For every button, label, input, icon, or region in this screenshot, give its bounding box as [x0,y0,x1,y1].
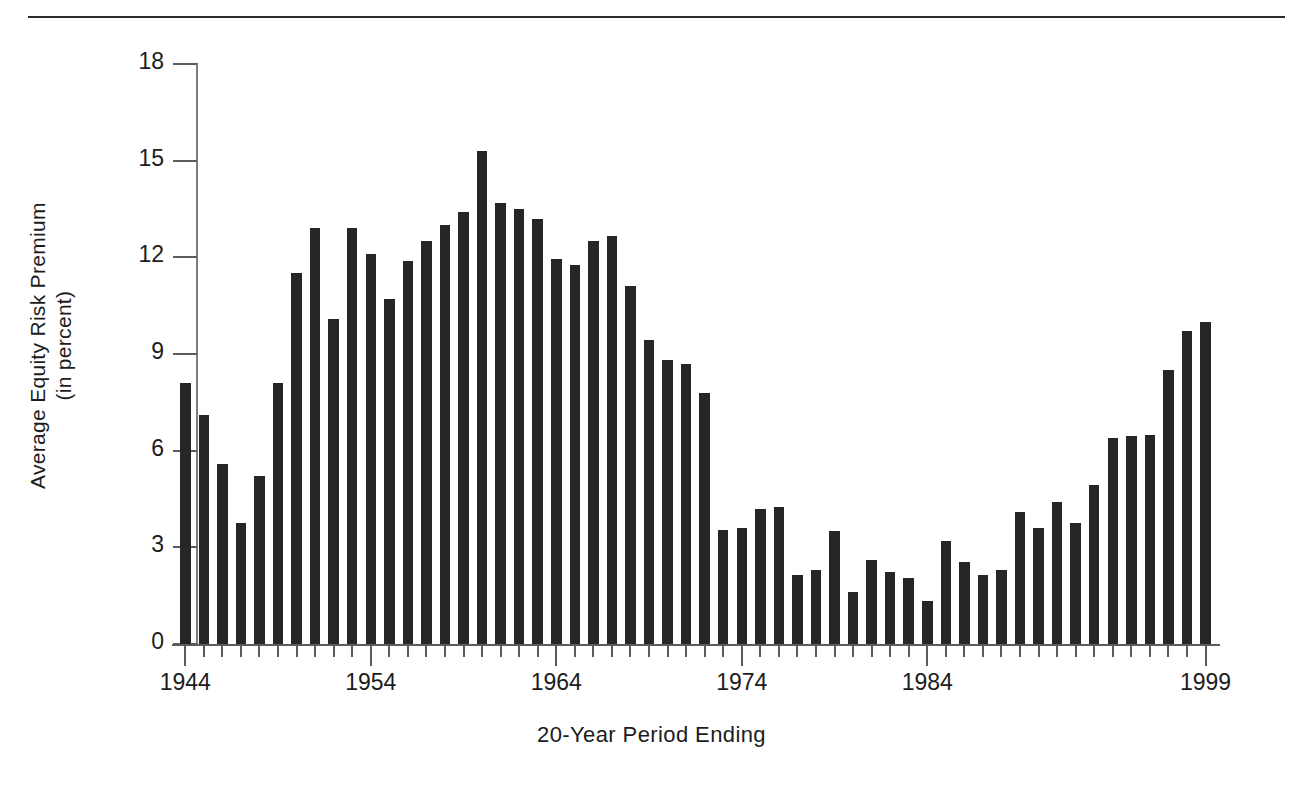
bar-1991 [1052,502,1063,644]
x-tick-1972 [704,646,706,657]
x-tick-1981 [871,646,873,657]
bar-1946 [217,464,228,644]
x-tick-1958 [444,646,446,657]
bar-1993 [1089,485,1100,645]
x-tick-1989 [1019,646,1021,657]
bar-1963 [532,219,543,644]
x-tick-label-1944: 1944 [125,669,245,696]
x-tick-1990 [1038,646,1040,657]
x-tick-1980 [852,646,854,657]
x-tick-1951 [314,646,316,657]
bar-1972 [699,393,710,644]
x-tick-1982 [889,646,891,657]
x-tick-1997 [1167,646,1169,657]
x-tick-1978 [815,646,817,657]
bar-1989 [1015,512,1026,644]
bar-1988 [996,570,1007,644]
x-tick-1996 [1149,646,1151,657]
x-tick-1986 [963,646,965,657]
bar-1970 [662,360,673,644]
x-tick-1964 [555,646,557,666]
bar-1950 [291,273,302,644]
bar-1986 [959,562,970,644]
chart-figure: Average Equity Risk Premium (in percent)… [0,0,1303,811]
bar-1958 [440,225,451,644]
x-tick-label-1984: 1984 [867,669,987,696]
bar-1945 [199,415,210,644]
x-axis-title: 20-Year Period Ending [0,722,1303,748]
x-tick-1970 [667,646,669,657]
x-tick-1991 [1056,646,1058,657]
bar-1962 [514,209,525,644]
bar-1976 [774,507,785,644]
x-tick-1975 [759,646,761,657]
bar-1957 [421,241,432,644]
bar-1979 [829,531,840,644]
x-tick-1971 [685,646,687,657]
x-tick-1985 [945,646,947,657]
bar-1960 [477,151,488,644]
x-tick-1977 [796,646,798,657]
x-tick-1961 [500,646,502,657]
x-tick-label-1964: 1964 [496,669,616,696]
x-tick-1960 [481,646,483,657]
x-tick-1976 [778,646,780,657]
x-tick-1962 [518,646,520,657]
x-tick-1959 [463,646,465,657]
bar-1969 [644,340,655,645]
bar-1977 [792,575,803,644]
bar-1967 [607,236,618,644]
bar-1996 [1145,435,1156,644]
bar-1955 [384,299,395,644]
bar-1999 [1200,322,1211,644]
x-tick-1957 [425,646,427,657]
x-tick-1950 [296,646,298,657]
x-tick-1953 [351,646,353,657]
bar-1966 [588,241,599,644]
bar-1953 [347,228,358,644]
x-tick-1988 [1000,646,1002,657]
bar-1974 [737,528,748,644]
bar-1971 [681,364,692,644]
bar-1975 [755,509,766,644]
x-tick-1956 [407,646,409,657]
bar-1947 [236,523,247,644]
bar-1978 [811,570,822,644]
bar-1948 [254,476,265,644]
x-tick-1966 [592,646,594,657]
x-tick-1999 [1205,646,1207,666]
bar-1985 [941,541,952,644]
x-tick-1945 [203,646,205,657]
x-tick-1944 [184,646,186,666]
bar-1992 [1070,523,1081,644]
x-tick-1952 [333,646,335,657]
x-tick-1967 [611,646,613,657]
x-tick-1995 [1130,646,1132,657]
bar-1987 [978,575,989,644]
x-tick-1992 [1075,646,1077,657]
x-tick-1965 [574,646,576,657]
x-tick-1998 [1186,646,1188,657]
x-tick-1974 [741,646,743,666]
bar-1959 [458,212,469,644]
bar-1968 [625,286,636,644]
x-tick-1979 [834,646,836,657]
bar-1995 [1126,436,1137,644]
bar-1973 [718,530,729,644]
x-tick-1987 [982,646,984,657]
x-tick-1969 [648,646,650,657]
bar-1965 [570,265,581,644]
x-tick-1994 [1112,646,1114,657]
x-tick-label-1999: 1999 [1146,669,1266,696]
bar-1951 [310,228,321,644]
x-tick-label-1954: 1954 [311,669,431,696]
x-tick-1946 [221,646,223,657]
bar-1990 [1033,528,1044,644]
x-tick-1948 [258,646,260,657]
bar-1964 [551,259,562,644]
bar-1981 [866,560,877,644]
bar-1949 [273,383,284,644]
bar-1984 [922,601,933,645]
x-tick-1983 [908,646,910,657]
bar-1954 [366,254,377,644]
